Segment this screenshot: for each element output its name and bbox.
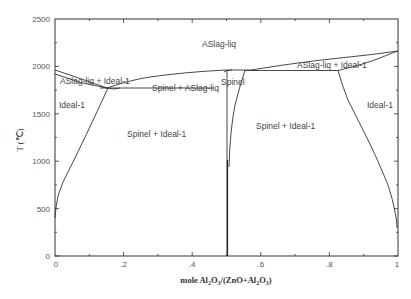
label-spinel-aslag: Spinel + ASlag-liq — [152, 83, 219, 93]
label-ideal-right: Ideal-1 — [367, 100, 393, 110]
label-spinel: Spinel — [221, 77, 245, 87]
svg-text:2500: 2500 — [32, 15, 50, 24]
x-axis-title: mole Al2O3/(ZnO+Al2O3) — [180, 275, 271, 286]
y-axis-title: T (℃) — [15, 128, 25, 151]
label-spinel-ideal-right: Spinel + Ideal-1 — [256, 121, 316, 131]
svg-text:2000: 2000 — [32, 62, 50, 71]
label-aslag-liq: ASlag-liq — [202, 39, 236, 49]
phase-diagram: 0 500 1000 1500 2000 2500 0 .2 .4 .6 .8 … — [0, 0, 411, 299]
y-tick-labels: 0 500 1000 1500 2000 2500 — [32, 15, 50, 261]
x-tick-labels: 0 .2 .4 .6 .8 1 — [54, 260, 400, 269]
svg-text:1: 1 — [395, 260, 400, 269]
svg-text:0: 0 — [54, 260, 59, 269]
region-labels: ASlag-liq ASlag-liq + Ideal-1 Ideal-1 Sp… — [59, 39, 393, 139]
svg-text:.8: .8 — [326, 260, 333, 269]
label-aslag-ideal-right: ASlag-liq + Ideal-1 — [297, 60, 367, 70]
svg-text:0: 0 — [46, 252, 51, 261]
svg-text:1000: 1000 — [32, 157, 50, 166]
svg-text:.4: .4 — [189, 260, 196, 269]
label-aslag-ideal-left: ASlag-liq + Ideal-1 — [60, 76, 130, 86]
label-spinel-ideal-left: Spinel + Ideal-1 — [127, 129, 187, 139]
svg-text:500: 500 — [37, 205, 51, 214]
svg-text:.6: .6 — [257, 260, 264, 269]
label-ideal-left: Ideal-1 — [59, 100, 85, 110]
y-axis — [55, 43, 398, 256]
right-ideal-boundary — [338, 71, 397, 229]
svg-text:1500: 1500 — [32, 110, 50, 119]
plot-frame — [55, 19, 398, 256]
svg-text:.2: .2 — [120, 260, 127, 269]
